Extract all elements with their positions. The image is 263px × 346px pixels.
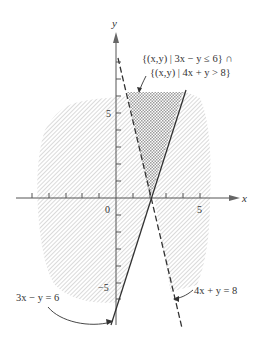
label-3x-minus-y-eq-6: 3x − y = 6 xyxy=(16,292,59,303)
x-axis-label: x xyxy=(241,192,247,204)
y-axis-label: y xyxy=(111,17,117,29)
y-tick-label-5: 5 xyxy=(106,108,111,119)
origin-label: 0 xyxy=(105,204,110,215)
x-tick-label-5: 5 xyxy=(197,204,202,215)
region-label-line2: {(x,y) | 4x + y > 8} xyxy=(150,67,231,79)
y-tick-label-neg5: −5 xyxy=(98,282,109,293)
label-4x-plus-y-eq-8: 4x + y = 8 xyxy=(194,285,237,296)
inequality-graph: y x 0 5 5 −5 {(x,y) | 3x − y ≤ 6} ∩ {(x,… xyxy=(0,0,263,346)
label-3x-arrow xyxy=(48,307,111,324)
region-label-line1: {(x,y) | 3x − y ≤ 6} ∩ xyxy=(142,53,233,65)
